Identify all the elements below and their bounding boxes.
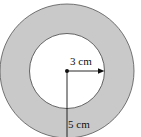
center-point <box>65 69 69 73</box>
inner-radius-label: 3 cm <box>70 55 92 67</box>
annulus-diagram: 3 cm 5 cm <box>0 0 141 137</box>
outer-radius-label: 5 cm <box>68 118 90 130</box>
